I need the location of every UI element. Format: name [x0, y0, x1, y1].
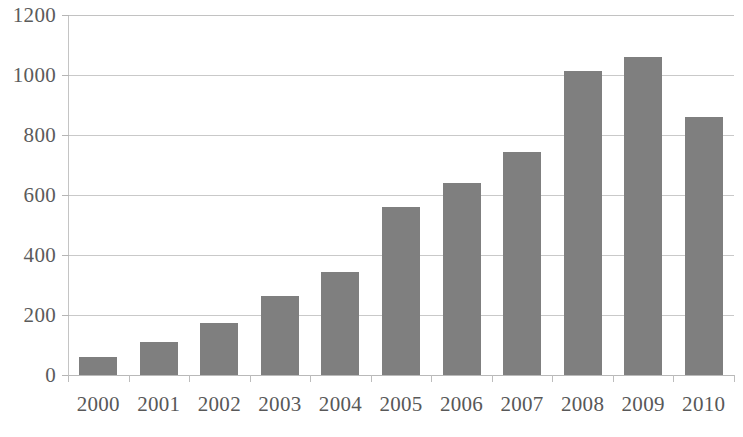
x-axis-tick [189, 375, 190, 382]
y-axis-label: 200 [0, 303, 56, 328]
x-axis-tick [613, 375, 614, 382]
bar-2000 [79, 357, 117, 375]
y-axis-label: 800 [0, 123, 56, 148]
x-axis-label-2006: 2006 [427, 392, 497, 417]
bar-2007 [503, 152, 541, 376]
x-axis-tick [310, 375, 311, 382]
bar-2008 [564, 71, 602, 376]
gridline [68, 375, 734, 376]
x-axis-tick [250, 375, 251, 382]
y-axis-label: 1000 [0, 63, 56, 88]
x-axis-label-2008: 2008 [548, 392, 618, 417]
bar-chart: 020040060080010001200 200020012002200320… [0, 0, 743, 437]
bar-2010 [685, 117, 723, 375]
bar-2005 [382, 207, 420, 375]
x-axis-label-2003: 2003 [245, 392, 315, 417]
plot-area [68, 15, 734, 375]
bars-layer [68, 15, 734, 375]
bar-2004 [321, 272, 359, 376]
x-axis-label-2001: 2001 [124, 392, 194, 417]
x-axis-label-2004: 2004 [305, 392, 375, 417]
bar-2002 [200, 323, 238, 376]
bar-2006 [443, 183, 481, 375]
x-axis-label-2002: 2002 [184, 392, 254, 417]
y-axis-label: 600 [0, 183, 56, 208]
x-axis-label-2000: 2000 [63, 392, 133, 417]
y-axis-label: 0 [0, 363, 56, 388]
y-axis-label: 400 [0, 243, 56, 268]
x-axis-tick [129, 375, 130, 382]
x-axis-label-2009: 2009 [608, 392, 678, 417]
x-axis-label-2010: 2010 [669, 392, 739, 417]
y-axis-label: 1200 [0, 3, 56, 28]
bar-2003 [261, 296, 299, 376]
x-axis-tick [68, 375, 69, 382]
x-axis-tick [673, 375, 674, 382]
x-axis-tick [431, 375, 432, 382]
x-axis-label-2005: 2005 [366, 392, 436, 417]
bar-2001 [140, 342, 178, 375]
x-axis-tick [734, 375, 735, 382]
x-axis-tick [552, 375, 553, 382]
x-axis-tick [371, 375, 372, 382]
x-axis-tick [492, 375, 493, 382]
bar-2009 [624, 57, 662, 375]
x-axis-label-2007: 2007 [487, 392, 557, 417]
